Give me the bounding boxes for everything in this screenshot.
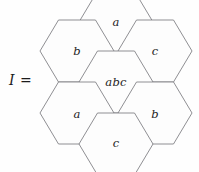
hex-label-lower-left: a <box>74 107 81 121</box>
hex-label-lower-right: b <box>151 107 158 121</box>
figure-canvas: I = a b c abc a b c <box>0 0 199 172</box>
hex-label-upper-right: c <box>152 44 159 58</box>
hex-label-center: abc <box>105 75 127 89</box>
hex-label-bottom: c <box>113 136 120 150</box>
hexagon-diagram: a b c abc a b c <box>0 0 199 172</box>
hex-label-top: a <box>113 15 120 29</box>
hex-label-upper-left: b <box>73 44 80 58</box>
